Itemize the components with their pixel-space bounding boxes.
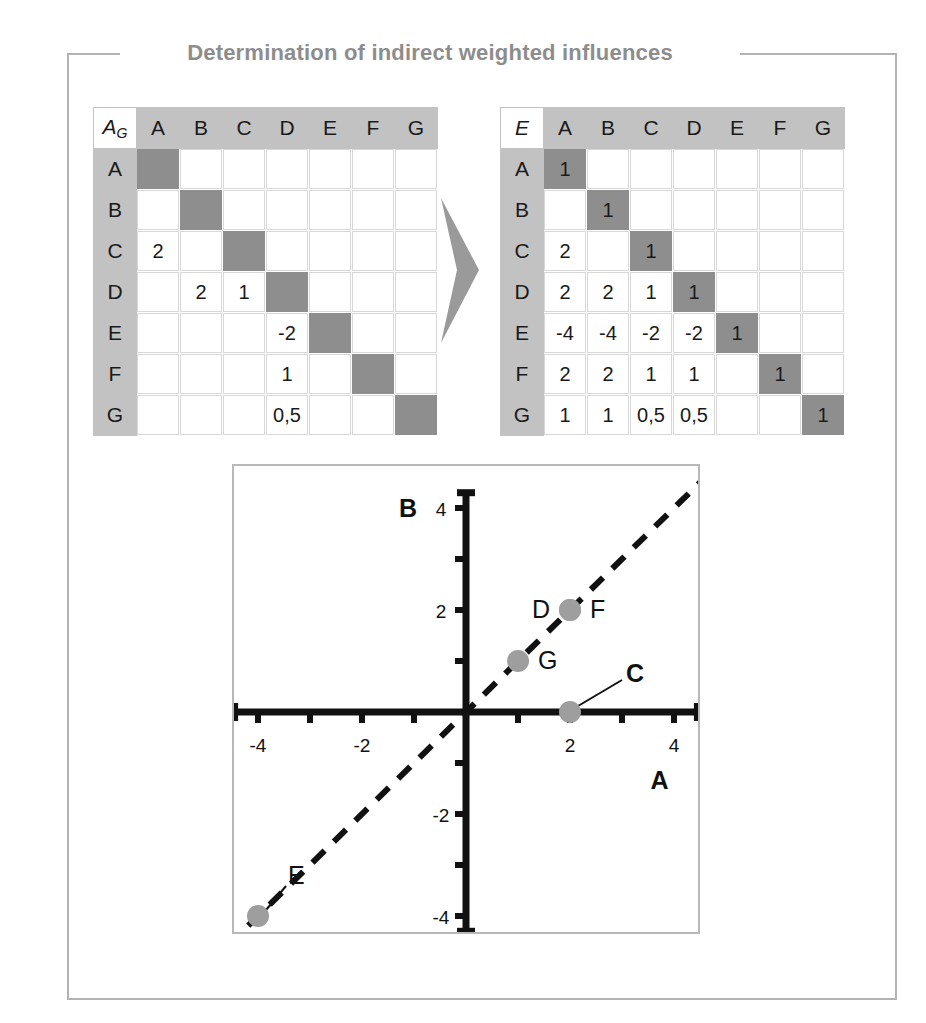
data-point-g[interactable] (507, 650, 529, 672)
cell-g-g: 1 (802, 395, 845, 436)
col-header-c: C (630, 108, 673, 149)
data-point-label-e: E (288, 861, 305, 889)
table-row: G 1 1 0,5 0,5 1 (501, 395, 845, 436)
cell-g-c (223, 395, 266, 436)
cell-c-c (223, 231, 266, 272)
cell-a-c (223, 149, 266, 190)
cell-a-a: 1 (544, 149, 587, 190)
cell-a-g (802, 149, 845, 190)
cell-d-f (352, 272, 395, 313)
cell-f-e (309, 354, 352, 395)
data-point-label-d: D (532, 595, 550, 623)
cell-f-c: 1 (630, 354, 673, 395)
cell-a-d (266, 149, 309, 190)
row-header-f: F (94, 354, 137, 395)
cell-b-b (180, 190, 223, 231)
cell-e-e (309, 313, 352, 354)
cell-a-b (587, 149, 630, 190)
cell-c-c: 1 (630, 231, 673, 272)
cell-f-c (223, 354, 266, 395)
col-header-f: F (759, 108, 802, 149)
cell-g-b: 1 (587, 395, 630, 436)
cell-c-d (266, 231, 309, 272)
row-header-f: F (501, 354, 544, 395)
cell-g-d: 0,5 (673, 395, 716, 436)
cell-a-e (716, 149, 759, 190)
row-header-b: B (501, 190, 544, 231)
cell-f-a (137, 354, 180, 395)
cell-e-g (395, 313, 438, 354)
y-tick-label: -2 (433, 805, 450, 826)
cell-b-g (802, 190, 845, 231)
cell-a-f (352, 149, 395, 190)
cell-b-c (630, 190, 673, 231)
col-header-e: E (716, 108, 759, 149)
col-header-d: D (673, 108, 716, 149)
cell-d-a (137, 272, 180, 313)
table-row: F 1 (94, 354, 438, 395)
x-tick-label: -4 (250, 735, 267, 756)
table-row: E -4 -4 -2 -2 1 (501, 313, 845, 354)
row-header-a: A (501, 149, 544, 190)
cell-b-d (673, 190, 716, 231)
col-header-f: F (352, 108, 395, 149)
col-header-b: B (587, 108, 630, 149)
cell-b-f (352, 190, 395, 231)
cell-e-b: -4 (587, 313, 630, 354)
cell-g-a (137, 395, 180, 436)
cell-d-g (395, 272, 438, 313)
y-tick-label: -4 (433, 907, 450, 928)
corner-base: A (103, 115, 117, 138)
col-header-g: G (802, 108, 845, 149)
cell-g-a: 1 (544, 395, 587, 436)
row-header-e: E (501, 313, 544, 354)
x-tick-label: 2 (565, 735, 576, 756)
cell-b-c (223, 190, 266, 231)
cell-b-d (266, 190, 309, 231)
cell-c-a: 2 (544, 231, 587, 272)
cell-f-f: 1 (759, 354, 802, 395)
cell-d-e (309, 272, 352, 313)
data-point-e[interactable] (247, 905, 269, 927)
col-header-a: A (137, 108, 180, 149)
cell-a-d (673, 149, 716, 190)
cell-c-f (352, 231, 395, 272)
cell-b-e (309, 190, 352, 231)
x-axis-label: A (651, 766, 669, 794)
cell-a-a (137, 149, 180, 190)
cell-g-e (716, 395, 759, 436)
direct-influence-matrix: AG A B C D E F G A B C 2 D (93, 107, 438, 436)
cell-f-d: 1 (266, 354, 309, 395)
data-point-c[interactable] (559, 701, 581, 723)
cell-d-f (759, 272, 802, 313)
cell-d-c: 1 (630, 272, 673, 313)
row-header-c: C (94, 231, 137, 272)
cell-c-b (180, 231, 223, 272)
cell-a-c (630, 149, 673, 190)
col-header-a: A (544, 108, 587, 149)
label-leader-line (266, 886, 286, 910)
scatter-chart-panel: -4-22442-2-4BADFGCE (232, 464, 700, 934)
col-header-e: E (309, 108, 352, 149)
cell-f-g (802, 354, 845, 395)
table-row: D 2 2 1 1 (501, 272, 845, 313)
cell-b-e (716, 190, 759, 231)
cell-e-f (352, 313, 395, 354)
x-tick-label: -2 (354, 735, 371, 756)
col-header-c: C (223, 108, 266, 149)
cell-e-a: -4 (544, 313, 587, 354)
data-point-f[interactable] (559, 599, 581, 621)
table-row: C 2 1 (501, 231, 845, 272)
data-point-label-g: G (538, 646, 557, 674)
cell-c-d (673, 231, 716, 272)
figure-title: Determination of indirect weighted influ… (120, 38, 740, 68)
row-header-d: D (501, 272, 544, 313)
row-header-g: G (501, 395, 544, 436)
cell-d-g (802, 272, 845, 313)
table-row: B 1 (501, 190, 845, 231)
cell-g-f (759, 395, 802, 436)
cell-d-b: 2 (587, 272, 630, 313)
y-tick-label: 4 (436, 499, 447, 520)
cell-c-e (716, 231, 759, 272)
cell-d-c: 1 (223, 272, 266, 313)
